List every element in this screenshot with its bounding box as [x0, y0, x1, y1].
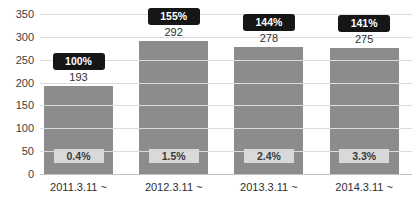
- percent-badge: 100%: [53, 53, 105, 70]
- y-tick-label: 300: [2, 31, 34, 43]
- percent-badge: 155%: [148, 8, 200, 25]
- bar-inner-label: 1.5%: [149, 149, 199, 163]
- bar-inner-label: 0.4%: [54, 149, 104, 163]
- bar-value-label: 278: [239, 32, 299, 45]
- y-tick-label: 150: [2, 99, 34, 111]
- bar-chart: 050100150200250300350 193100%0.4%292155%…: [0, 0, 415, 200]
- bar-value-label: 193: [49, 71, 109, 84]
- x-tick-label: 2013.3.11 ~: [221, 181, 317, 193]
- y-tick-label: 0: [2, 168, 34, 180]
- y-tick-label: 350: [2, 8, 34, 20]
- y-tick-label: 250: [2, 54, 34, 66]
- y-tick-label: 50: [2, 145, 34, 157]
- bar-value-label: 292: [144, 26, 204, 39]
- gridline: [40, 128, 412, 129]
- percent-badge: 141%: [338, 15, 390, 32]
- x-axis-line: [40, 174, 412, 175]
- y-tick-label: 200: [2, 77, 34, 89]
- x-tick-label: 2014.3.11 ~: [316, 181, 412, 193]
- gridline: [40, 105, 412, 106]
- y-tick-label: 100: [2, 122, 34, 134]
- percent-badge: 144%: [243, 14, 295, 31]
- bar-value-label: 275: [334, 33, 394, 46]
- x-tick-label: 2011.3.11 ~: [31, 181, 127, 193]
- bar-inner-label: 3.3%: [339, 149, 389, 163]
- x-tick-label: 2012.3.11 ~: [126, 181, 222, 193]
- bar-inner-label: 2.4%: [244, 149, 294, 163]
